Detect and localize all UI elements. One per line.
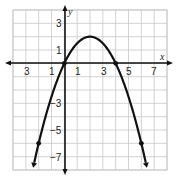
- y-tick-label: 1: [56, 45, 62, 56]
- x-tick-label: 3: [101, 66, 107, 77]
- x-tick-label: 7: [151, 66, 157, 77]
- x-axis-label: x: [159, 51, 165, 62]
- marked-point: [62, 61, 67, 66]
- y-tick-label: −7: [50, 152, 62, 163]
- y-tick-label: 3: [56, 18, 62, 29]
- x-tick-label: 5: [126, 66, 132, 77]
- marked-point: [139, 141, 144, 146]
- y-axis-up-arrow-icon: [63, 5, 68, 11]
- x-tick-label: 3: [24, 66, 30, 77]
- marked-point: [36, 141, 41, 146]
- y-tick-label: −3: [50, 98, 62, 109]
- grid: [13, 10, 167, 170]
- x-axis-left-arrow-icon: [5, 61, 11, 66]
- y-axis-down-arrow-icon: [63, 169, 68, 175]
- marked-point: [113, 61, 118, 66]
- y-tick-label: −5: [50, 125, 62, 136]
- x-tick-label: 1: [49, 66, 55, 77]
- x-axis-right-arrow-icon: [167, 61, 173, 66]
- x-tick-label: 1: [75, 66, 81, 77]
- parabola-graph: y x 3 1 1 3 5 7 3 1 −3 −5 −7: [0, 0, 179, 180]
- y-axis-label: y: [67, 6, 73, 17]
